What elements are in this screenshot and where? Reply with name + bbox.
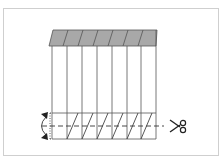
pleat-diagram	[0, 0, 224, 163]
scissors-icon	[170, 120, 186, 133]
header-band	[49, 30, 157, 46]
